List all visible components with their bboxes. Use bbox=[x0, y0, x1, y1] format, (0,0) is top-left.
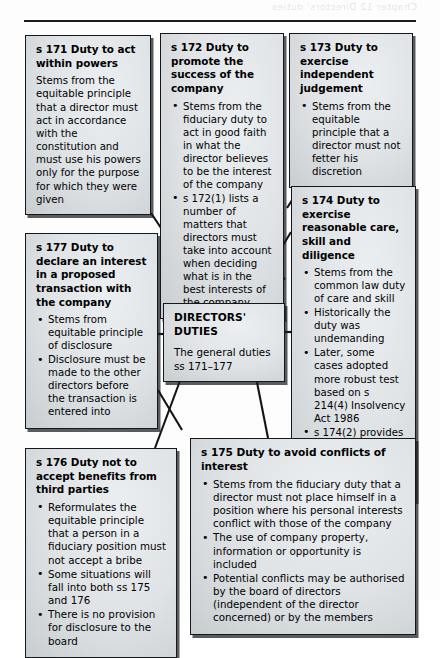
list-item: Stems from equitable principle of disclo… bbox=[47, 313, 148, 352]
list-item: Stems from the equitable principle that … bbox=[311, 100, 403, 178]
connector-s177-to-s176 bbox=[158, 390, 182, 430]
node-s176-bullet-list: Reformulates the equitable principle tha… bbox=[36, 501, 167, 648]
node-s171-body: Stems from the equitable principle that … bbox=[36, 74, 141, 206]
node-s177[interactable]: s 177 Duty to declare an interest in a p… bbox=[25, 233, 158, 429]
list-item: Stems from the fiduciary duty that a dir… bbox=[212, 478, 406, 531]
list-item: Historically the duty was undemanding bbox=[313, 306, 406, 345]
hub-body: The general duties ss 171–177 bbox=[174, 346, 275, 374]
node-s173-bullet-list: Stems from the equitable principle that … bbox=[300, 100, 403, 178]
node-s177-title: s 177 Duty to declare an interest in a p… bbox=[36, 241, 148, 309]
page-bleed-through-text: Chapter 12 Directors' duties bbox=[182, 1, 417, 14]
node-s172[interactable]: s 172 Duty to promote the success of the… bbox=[160, 33, 284, 319]
list-item: Disclosure must be made to the other dir… bbox=[47, 353, 148, 418]
node-s175-title: s 175 Duty to avoid conflicts of interes… bbox=[201, 446, 406, 474]
list-item: Potential conflicts may be authorised by… bbox=[212, 572, 406, 625]
node-s173[interactable]: s 173 Duty to exercise independent judge… bbox=[289, 33, 413, 188]
node-s175[interactable]: s 175 Duty to avoid conflicts of interes… bbox=[190, 438, 416, 635]
hub-title: DIRECTORS' DUTIES bbox=[174, 311, 275, 339]
list-item: s 172(1) lists a number of matters that … bbox=[182, 192, 274, 309]
top-horizontal-rule bbox=[24, 20, 416, 22]
node-directors-duties-hub[interactable]: DIRECTORS' DUTIES The general duties ss … bbox=[163, 303, 285, 382]
list-item: Stems from the fiduciary duty to act in … bbox=[182, 100, 274, 191]
list-item: Some situations will fall into both ss 1… bbox=[47, 568, 167, 608]
node-s174-title: s 174 Duty to exercise reasonable care, … bbox=[302, 194, 406, 262]
node-s172-title: s 172 Duty to promote the success of the… bbox=[171, 41, 274, 96]
list-item: Later, some cases adopted more robust te… bbox=[313, 346, 406, 424]
list-item: There is no provision for disclosure to … bbox=[47, 608, 167, 648]
node-s171[interactable]: s 171 Duty to act within powers Stems fr… bbox=[25, 35, 151, 215]
node-s176[interactable]: s 176 Duty not to accept benefits from t… bbox=[25, 448, 177, 658]
list-item: Reformulates the equitable principle tha… bbox=[47, 501, 167, 567]
node-s173-title: s 173 Duty to exercise independent judge… bbox=[300, 41, 403, 96]
list-item: Stems from the common law duty of care a… bbox=[313, 266, 406, 305]
list-item: The use of company property, information… bbox=[212, 531, 406, 571]
node-s176-title: s 176 Duty not to accept benefits from t… bbox=[36, 456, 167, 497]
node-s177-bullet-list: Stems from equitable principle of disclo… bbox=[36, 313, 148, 418]
node-s172-bullet-list: Stems from the fiduciary duty to act in … bbox=[171, 100, 274, 310]
node-s171-title: s 171 Duty to act within powers bbox=[36, 43, 141, 70]
node-s175-bullet-list: Stems from the fiduciary duty that a dir… bbox=[201, 478, 406, 625]
